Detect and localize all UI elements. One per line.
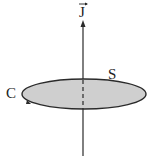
diagram-canvas: J C S bbox=[0, 0, 152, 163]
vector-j-label: J bbox=[79, 4, 85, 20]
surface-s-label: S bbox=[108, 66, 116, 82]
vector-j-arrowhead-icon bbox=[81, 20, 86, 27]
vector-j-label-arrowhead-icon bbox=[85, 3, 88, 6]
surface-s bbox=[22, 79, 146, 109]
curve-c-label: C bbox=[6, 85, 16, 101]
